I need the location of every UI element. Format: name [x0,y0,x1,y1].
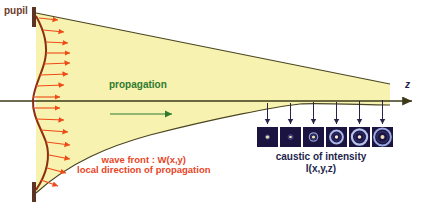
optics-caustic-diagram: pupil propagation z wave front : W(x,y) … [0,0,423,209]
diagram-canvas [0,0,423,209]
caustic-caption-line2: I(x,y,z) [265,164,377,175]
propagation-label: propagation [109,80,167,91]
pupil-label: pupil [4,6,28,17]
caustic-panel [349,127,370,147]
pupil-bar-bottom [32,182,36,202]
caustic-panel [280,127,301,147]
caustic-panel [326,127,347,147]
wavefront-caption: wave front : W(x,y) local direction of p… [77,155,211,175]
caustic-caption-line1: caustic of intensity [276,151,367,162]
caustic-caption: caustic of intensity I(x,y,z) [265,152,377,174]
wavefront-caption-line2: local direction of propagation [77,165,211,175]
caustic-panel [372,127,393,147]
pupil-bar-top [32,7,36,27]
caustic-panel [257,127,278,147]
caustic-panels [257,127,393,147]
z-axis-label: z [405,80,410,91]
caustic-panel [303,127,324,147]
